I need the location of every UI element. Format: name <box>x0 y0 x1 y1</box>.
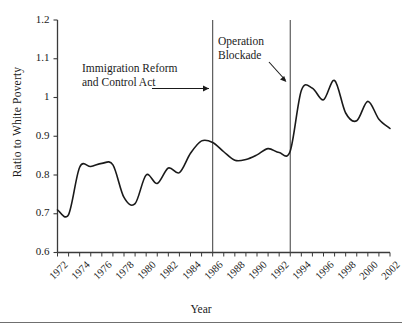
annotation-operation-blockade: Operation Blockade <box>218 35 264 62</box>
annotation-immigration-reform-and-control-act: Immigration Reform and Control Act <box>82 62 178 89</box>
figure-bottom-rule <box>0 322 402 323</box>
annotation-operation-blockade-line2: Blockade <box>218 49 264 63</box>
y-tick-label-0.9: 0.9 <box>10 129 50 141</box>
irca-arrow-head <box>203 86 209 92</box>
annotation-irca-line2: and Control Act <box>82 76 178 90</box>
x-axis-label: Year <box>0 303 402 315</box>
y-tick-label-1.1: 1.1 <box>10 51 50 63</box>
chart-figure: Ratio to White Poverty Year 0.60.70.80.9… <box>0 0 402 326</box>
annotation-irca-line1: Immigration Reform <box>82 62 178 76</box>
annotation-operation-blockade-line1: Operation <box>218 35 264 49</box>
y-tick-label-0.6: 0.6 <box>10 245 50 257</box>
y-tick-label-1.2: 1.2 <box>10 13 50 25</box>
y-tick-label-0.8: 0.8 <box>10 168 50 180</box>
y-tick-label-1: 1 <box>10 90 50 102</box>
operation-blockade-arrow-head <box>280 76 286 82</box>
data-line-ratio-to-white-poverty <box>58 80 391 217</box>
y-tick-label-0.7: 0.7 <box>10 206 50 218</box>
